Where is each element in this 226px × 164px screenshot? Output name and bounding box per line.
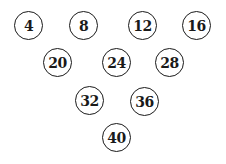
circle-12: 12 <box>128 11 157 40</box>
circle-label: 4 <box>24 19 33 33</box>
circle-label: 28 <box>160 56 178 70</box>
circle-label: 32 <box>80 94 98 108</box>
circle-label: 20 <box>48 56 66 70</box>
circle-label: 40 <box>107 131 125 145</box>
circle-40: 40 <box>102 123 131 152</box>
circle-label: 16 <box>187 19 205 33</box>
circle-8: 8 <box>69 11 98 40</box>
circle-4: 4 <box>14 11 43 40</box>
circle-28: 28 <box>155 48 184 77</box>
circle-36: 36 <box>130 87 159 116</box>
circle-label: 12 <box>133 19 151 33</box>
circle-label: 36 <box>135 95 153 109</box>
circle-32: 32 <box>75 86 104 115</box>
circle-16: 16 <box>182 11 211 40</box>
circle-label: 8 <box>79 19 88 33</box>
circle-label: 24 <box>107 56 125 70</box>
circle-24: 24 <box>102 48 131 77</box>
circle-20: 20 <box>43 48 72 77</box>
